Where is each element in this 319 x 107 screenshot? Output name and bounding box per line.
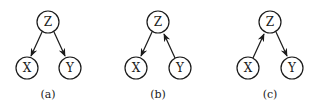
- svg-text:X: X: [244, 61, 253, 75]
- panel-caption: (c): [263, 88, 278, 101]
- panel-a: Z X Y (a): [16, 11, 81, 101]
- panel-b: Z X Y (b): [125, 11, 191, 101]
- node-y: Y: [59, 57, 81, 79]
- node-y: Y: [281, 57, 303, 79]
- svg-text:Z: Z: [44, 15, 52, 29]
- edge-z-to-y: [276, 32, 287, 56]
- svg-text:Y: Y: [65, 61, 75, 75]
- panel-caption: (a): [40, 88, 55, 101]
- panel-caption: (b): [150, 88, 166, 101]
- edge-z-to-x: [141, 32, 152, 56]
- svg-text:Z: Z: [154, 15, 162, 29]
- node-z: Z: [259, 11, 281, 33]
- edge-y-to-z: [164, 34, 175, 58]
- node-z: Z: [37, 11, 59, 33]
- edge-z-to-y: [54, 32, 65, 56]
- edge-z-to-x: [31, 32, 42, 56]
- svg-text:X: X: [132, 61, 141, 75]
- node-z: Z: [147, 11, 169, 33]
- node-x: X: [125, 57, 147, 79]
- node-y: Y: [169, 57, 191, 79]
- svg-text:Y: Y: [175, 61, 185, 75]
- panel-c: Z X Y (c): [237, 11, 303, 101]
- edge-x-to-z: [253, 34, 264, 58]
- svg-text:Z: Z: [266, 15, 274, 29]
- causal-graphs-figure: Z X Y (a) Z X Y (b): [0, 0, 319, 107]
- node-x: X: [16, 57, 38, 79]
- svg-text:Y: Y: [287, 61, 297, 75]
- node-x: X: [237, 57, 259, 79]
- svg-text:X: X: [23, 61, 32, 75]
